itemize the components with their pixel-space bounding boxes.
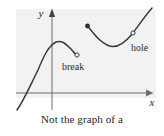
hole-open-circle-icon <box>131 31 135 35</box>
y-axis-label: y <box>38 7 44 19</box>
graph-plot: y x break hole <box>0 0 164 112</box>
figure-caption: Not the graph of a <box>0 113 164 125</box>
break-open-circle-icon <box>75 53 79 57</box>
endpoint-filled-dot-icon <box>85 24 90 29</box>
break-label: break <box>62 61 84 72</box>
plot-background-panel <box>16 9 156 98</box>
function-graph-figure: y x break hole Not the graph of a <box>0 0 164 136</box>
hole-label: hole <box>131 42 149 53</box>
x-axis-label: x <box>149 96 155 108</box>
